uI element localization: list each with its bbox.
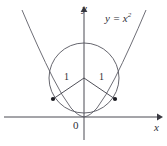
y-axis-label: y: [82, 3, 87, 14]
equation-label: y = x2: [105, 13, 131, 24]
x-axis-label: x: [154, 122, 159, 133]
tangent-point-left: [51, 97, 55, 101]
radius-right-label: 1: [99, 72, 104, 82]
equation-base: y = x: [105, 12, 128, 24]
x-axis-arrow-icon: [157, 114, 163, 121]
radius-left-label: 1: [64, 72, 69, 82]
equation-exponent: 2: [128, 11, 132, 19]
math-figure: y x 0 1 1 y = x2: [0, 0, 167, 146]
origin-label: 0: [73, 120, 79, 131]
figure-canvas: [0, 0, 167, 146]
tangent-point-right: [113, 97, 117, 101]
